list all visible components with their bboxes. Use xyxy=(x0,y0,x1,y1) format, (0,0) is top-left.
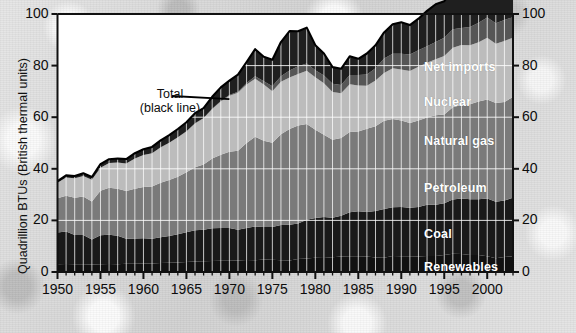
y-tick-left-100: 100 xyxy=(25,5,48,21)
y-tick-right-80: 80 xyxy=(522,57,538,73)
y-tick-right-60: 60 xyxy=(522,108,538,124)
series-label-natural-gas: Natural gas xyxy=(424,134,494,148)
series-label-net-imports: Net imports xyxy=(424,60,496,74)
x-tick-2000: 2000 xyxy=(470,281,504,297)
y-tick-left-40: 40 xyxy=(33,160,49,176)
series-label-petroleum: Petroleum xyxy=(424,181,487,195)
y-tick-right-20: 20 xyxy=(522,211,538,227)
x-tick-1980: 1980 xyxy=(298,281,332,297)
x-tick-1985: 1985 xyxy=(341,281,375,297)
x-tick-1950: 1950 xyxy=(41,281,75,297)
y-tick-right-40: 40 xyxy=(522,160,538,176)
series-label-coal: Coal xyxy=(424,227,452,241)
x-tick-1970: 1970 xyxy=(212,281,246,297)
x-tick-1975: 1975 xyxy=(255,281,289,297)
y-tick-left-60: 60 xyxy=(33,108,49,124)
y-tick-left-0: 0 xyxy=(41,263,49,279)
x-tick-1990: 1990 xyxy=(384,281,418,297)
series-label-nuclear: Nuclear xyxy=(424,95,471,109)
total-annotation-line2: (black line) xyxy=(118,101,222,115)
y-tick-left-20: 20 xyxy=(33,211,49,227)
x-tick-1965: 1965 xyxy=(169,281,203,297)
series-label-renewables: Renewables xyxy=(424,260,498,274)
x-tick-1995: 1995 xyxy=(427,281,461,297)
total-annotation: Total (black line) xyxy=(118,87,222,116)
x-tick-1960: 1960 xyxy=(126,281,160,297)
x-tick-1955: 1955 xyxy=(83,281,117,297)
total-annotation-line1: Total xyxy=(118,87,222,101)
y-tick-right-100: 100 xyxy=(522,5,545,21)
y-tick-left-80: 80 xyxy=(33,57,49,73)
chart-figure: Quadrillion BTUs (British thermal units)… xyxy=(0,0,576,333)
y-tick-right-0: 0 xyxy=(522,263,530,279)
